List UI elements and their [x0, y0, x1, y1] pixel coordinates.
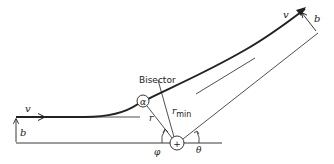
alpha-trajectory	[16, 9, 305, 117]
velocity-out-label: v	[283, 9, 289, 20]
velocity-in-label: v	[25, 103, 31, 114]
r-min-label: rmin	[172, 106, 191, 119]
outgoing-asymptote	[196, 58, 255, 94]
impact-parameter-out-label: b	[314, 13, 320, 24]
scattering-diagram: α + v b v b Bisector r rmin φ θ	[0, 0, 334, 164]
theta-label: θ	[196, 145, 202, 155]
impact-parameter-in-label: b	[20, 127, 26, 138]
nucleus-label: +	[173, 139, 181, 149]
alpha-label: α	[140, 97, 146, 107]
bisector-label: Bisector	[139, 75, 176, 85]
outgoing-reference-line	[183, 33, 318, 139]
r-label: r	[149, 113, 154, 123]
phi-label: φ	[154, 147, 161, 157]
